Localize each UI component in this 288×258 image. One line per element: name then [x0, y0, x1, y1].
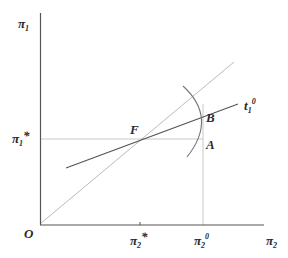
pi2-star-label: π2*	[130, 229, 148, 250]
point-b-label: B	[205, 110, 215, 125]
diagram: π1 π1* O π2* π20 π2 F B A t10	[0, 0, 288, 258]
origin-label: O	[24, 226, 34, 241]
pi1-star-label: π1*	[12, 128, 30, 148]
point-f-label: F	[129, 122, 139, 137]
y-axis-label: π1	[18, 16, 29, 33]
point-a-label: A	[205, 137, 215, 152]
pi2-zero-label: π20	[194, 232, 209, 250]
diagonal-line	[40, 62, 234, 224]
t1-zero-label: t10	[244, 97, 256, 115]
x-axis-label: π2	[266, 233, 277, 250]
